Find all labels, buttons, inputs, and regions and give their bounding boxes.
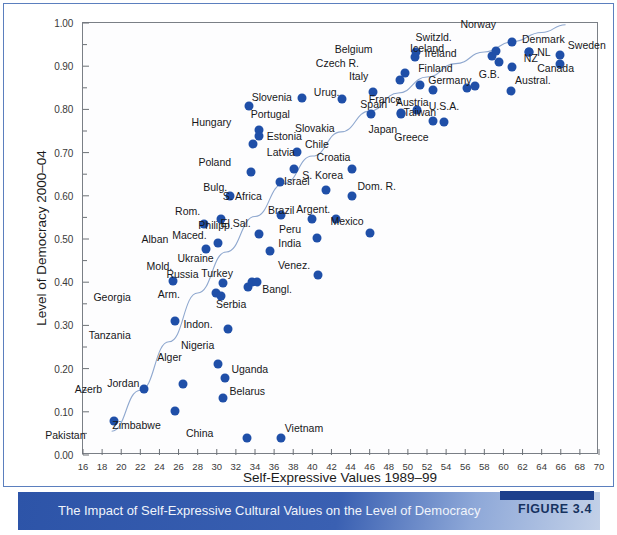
data-point	[254, 230, 263, 239]
y-tick-label: 0.00	[39, 450, 73, 461]
data-point	[308, 214, 317, 223]
data-point-label: U.S.A.	[429, 101, 459, 112]
y-tick-label: 0.70	[39, 147, 73, 158]
data-point-label: Mexico	[330, 216, 363, 227]
data-point-label: Poland	[198, 157, 231, 168]
data-point	[266, 246, 275, 255]
y-tick-label: 0.60	[39, 190, 73, 201]
data-point	[170, 406, 179, 415]
data-point-label: NL	[537, 47, 550, 58]
data-point-label: Turkey	[201, 268, 233, 279]
data-point	[347, 191, 356, 200]
data-point	[507, 87, 516, 96]
data-point-label: Jordan	[107, 378, 139, 389]
data-point-label: China	[186, 428, 213, 439]
data-point	[179, 379, 188, 388]
data-point-label: Zimbabwe	[112, 420, 160, 431]
data-point-label: Greece	[394, 132, 428, 143]
data-point-label: Croatia	[317, 152, 351, 163]
data-point	[221, 373, 230, 382]
data-point-label: Iceland	[410, 43, 444, 54]
y-tick-label: 0.10	[39, 406, 73, 417]
data-point	[321, 185, 330, 194]
data-point-label: Norway	[460, 19, 496, 30]
data-point-label: Latvia	[267, 147, 295, 158]
data-point-label: Uganda	[231, 364, 268, 375]
figure-badge-accent	[500, 491, 594, 500]
data-point-label: Canada	[537, 63, 574, 74]
data-point	[213, 359, 222, 368]
data-point	[247, 168, 256, 177]
data-point-label: Denmark	[522, 34, 565, 45]
data-point-label: Israel	[284, 176, 310, 187]
data-point	[470, 82, 479, 91]
data-point-label: Georgia	[93, 292, 130, 303]
figure-number-badge: FIGURE 3.4	[518, 502, 592, 516]
data-point-label: Bangl.	[262, 284, 292, 295]
y-tick-label: 0.50	[39, 234, 73, 245]
data-point-label: Alger	[157, 352, 182, 363]
data-point-label: Slovenia	[252, 92, 292, 103]
data-point-label: Arm.	[158, 289, 180, 300]
data-point-label: Venez.	[278, 260, 310, 271]
data-point	[297, 93, 306, 102]
data-point	[243, 434, 252, 443]
data-point-label: Italy	[349, 71, 368, 82]
data-point	[252, 277, 261, 286]
figure-page: Level of Democracy 2000–04 PakistanAzerb…	[0, 0, 617, 535]
data-point	[508, 63, 517, 72]
data-point	[314, 270, 323, 279]
plot-area: PakistanAzerbGeorgiaTanzaniaZimbabweJord…	[83, 23, 597, 453]
data-point-label: Czech R.	[316, 58, 359, 69]
data-point-label: Japan	[369, 124, 398, 135]
data-point-label: Hungary	[192, 117, 232, 128]
data-point-label: Azerb	[75, 384, 102, 395]
data-point-label: Maced.	[172, 230, 206, 241]
y-tick-label: 1.00	[39, 18, 73, 29]
data-point-label: Chile	[305, 139, 329, 150]
data-point	[365, 229, 374, 238]
plot-frame: PakistanAzerbGeorgiaTanzaniaZimbabweJord…	[82, 22, 598, 454]
y-tick-label: 0.40	[39, 277, 73, 288]
data-point-label: El Sal.	[220, 218, 250, 229]
data-point-label: Belgium	[335, 44, 373, 55]
data-point-label: Urug.	[314, 87, 340, 98]
data-point-label: Brazil	[268, 205, 294, 216]
data-point-label: Alban	[141, 234, 168, 245]
data-point-label: Peru	[279, 224, 301, 235]
data-point	[401, 69, 410, 78]
data-point	[290, 164, 299, 173]
data-point	[348, 164, 357, 173]
data-point-label: Russia	[166, 269, 198, 280]
figure-caption-bar: The Impact of Self-Expressive Cultural V…	[18, 492, 600, 530]
data-point-label: S. Africa	[223, 191, 262, 202]
y-tick-label: 0.30	[39, 320, 73, 331]
data-point-label: Rom.	[175, 206, 200, 217]
data-point	[219, 394, 228, 403]
data-point-label: Dom. R.	[358, 181, 397, 192]
data-point-label: Sweden	[568, 40, 606, 51]
data-point-label: Pakistan	[45, 430, 85, 441]
data-point-label: NZ	[524, 53, 538, 64]
data-point-label: Austral.	[515, 75, 551, 86]
data-point	[494, 57, 503, 66]
data-point-label: Portugal	[251, 109, 290, 120]
data-point	[555, 51, 564, 60]
data-point-label: Germany	[428, 75, 471, 86]
data-point-label: Indon.	[183, 319, 212, 330]
data-point	[213, 239, 222, 248]
data-point	[440, 118, 449, 127]
data-point-label: Finland	[418, 63, 452, 74]
data-point-label: India	[278, 238, 301, 249]
data-point	[140, 384, 149, 393]
data-point	[218, 279, 227, 288]
data-point	[249, 139, 258, 148]
data-point	[170, 316, 179, 325]
data-point-label: Switzld.	[416, 32, 452, 43]
data-point	[428, 86, 437, 95]
data-point-label: Belarus	[229, 386, 265, 397]
data-point-label: Serbia	[216, 299, 246, 310]
data-point	[275, 177, 284, 186]
data-point	[508, 38, 517, 47]
data-point-label: Slovakia	[295, 123, 335, 134]
